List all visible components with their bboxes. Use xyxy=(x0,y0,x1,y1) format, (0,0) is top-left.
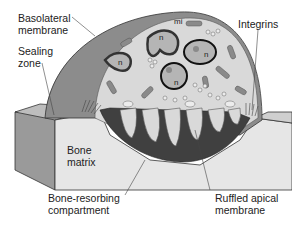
label-ruffled-apical-membrane: Ruffled apical membrane xyxy=(215,192,278,216)
label-line: zone xyxy=(18,57,53,69)
label-line: membrane xyxy=(215,204,278,216)
label-integrins: Integrins xyxy=(238,18,278,30)
label-nucleus-4: n xyxy=(174,78,178,87)
label-bone-resorbing-compartment: Bone-resorbing compartment xyxy=(48,192,120,216)
label-line: Integrins xyxy=(238,18,278,30)
label-line: Bone-resorbing xyxy=(48,192,120,204)
label-line: Ruffled apical xyxy=(215,192,278,204)
nucleolus xyxy=(166,67,172,73)
label-line: Basolateral xyxy=(18,12,71,24)
label-mitochondrion: mi xyxy=(174,17,182,26)
nucleus-3 xyxy=(184,40,216,64)
label-line: matrix xyxy=(67,156,96,168)
label-bone-matrix: Bone matrix xyxy=(67,144,96,168)
label-basolateral-membrane: Basolateral membrane xyxy=(18,12,71,36)
bone-side-left xyxy=(15,108,55,190)
label-sealing-zone: Sealing zone xyxy=(18,45,53,69)
label-nucleus-1: n xyxy=(159,33,163,42)
nucleolus xyxy=(193,46,199,52)
label-nucleus-2: n xyxy=(118,58,122,67)
osteoclast-diagram: Basolateral membrane Sealing zone Integr… xyxy=(0,0,292,225)
label-line: membrane xyxy=(18,24,71,36)
label-line: Sealing xyxy=(18,45,53,57)
label-line: compartment xyxy=(48,204,120,216)
label-nucleus-3: n xyxy=(204,50,208,59)
label-line: Bone xyxy=(67,144,96,156)
